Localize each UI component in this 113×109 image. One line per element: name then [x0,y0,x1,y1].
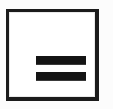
equals-bar-lower [36,72,86,81]
icon-canvas: = [0,0,113,109]
equals-sign-icon[interactable]: = [6,9,99,101]
equals-bar-upper [36,56,86,65]
equals-icon-label: = [9,12,10,13]
